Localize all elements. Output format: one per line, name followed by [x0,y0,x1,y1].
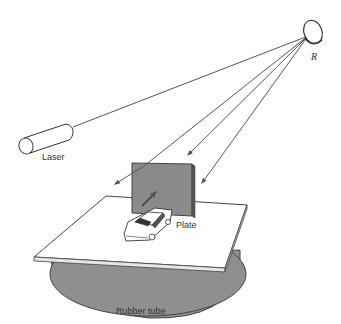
reference-beam-2 [188,36,308,155]
reference-beam-3 [202,36,308,183]
laser [17,124,73,156]
laser-label: Laser [42,152,65,162]
holography-setup-diagram: R Laser Plate Rubber tube [0,0,341,324]
reference-beam-1 [144,36,308,166]
rubber-tube-label: Rubber tube [116,306,166,316]
mirror-label: R [310,51,317,62]
laser-beam [73,36,308,127]
plate-label: Plate [176,220,197,230]
